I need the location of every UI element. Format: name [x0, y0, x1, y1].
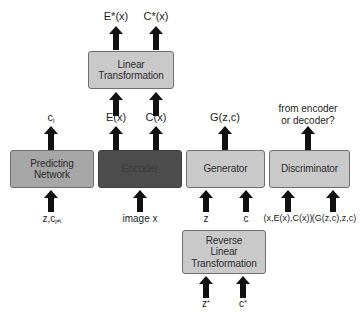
box-discriminator[interactable]: Discriminator — [269, 150, 350, 188]
label-c-i-subscript: i — [53, 117, 55, 124]
linear-transformation-label-line2: Transformation — [89, 70, 173, 81]
box-linear-transformation[interactable]: Linear Transformation — [88, 51, 174, 89]
arrow-encoder-to-ex — [109, 126, 123, 150]
label-input-generator-c: c — [236, 213, 256, 225]
predicting-network-label-line1: Predicting — [11, 158, 93, 169]
label-input-generator-z: z — [196, 213, 216, 225]
encoder-label: Encoder — [99, 163, 181, 174]
input-reverse-z-superscript: * — [207, 298, 210, 307]
arrow-predicting-to-ci — [44, 126, 58, 150]
box-encoder[interactable]: Encoder — [98, 150, 182, 188]
input-predicting-base: z,c — [43, 213, 56, 224]
arrow-input-to-encoder — [133, 190, 147, 212]
label-c-x: C(x) — [133, 111, 179, 124]
arrow-input-to-predicting — [44, 190, 58, 212]
arrow-c-to-generator — [239, 190, 253, 212]
arrow-encoder-to-cx — [149, 126, 163, 150]
from-encoder-line2: or decoder? — [281, 115, 334, 126]
label-input-discriminator-fake: (G(z,c),z,c) — [301, 213, 361, 223]
from-encoder-line1: from encoder — [279, 103, 338, 114]
reverse-lt-label-line3: Transformation — [183, 258, 265, 269]
label-input-encoder: image x — [110, 213, 170, 225]
predicting-network-label-line2: Network — [11, 169, 93, 180]
box-generator[interactable]: Generator — [186, 150, 265, 188]
arrow-discriminator-to-output — [301, 126, 315, 150]
label-input-reverse-z-star: z* — [196, 298, 216, 310]
label-c-star-x: C*(x) — [133, 10, 179, 23]
generator-label: Generator — [187, 163, 264, 174]
arrow-z-star-to-reverse-lt — [199, 276, 213, 298]
label-from-encoder-or-decoder: from encoder or decoder? — [264, 103, 352, 126]
arrow-z-to-generator — [199, 190, 213, 212]
box-reverse-linear-transformation[interactable]: Reverse Linear Transformation — [182, 230, 266, 274]
label-c-i: ci — [31, 111, 71, 124]
arrow-lt-to-c-star — [149, 26, 163, 50]
reverse-lt-label-line2: Linear — [183, 246, 265, 257]
arrow-c-star-to-reverse-lt — [236, 276, 250, 298]
discriminator-label: Discriminator — [270, 163, 349, 174]
box-predicting-network[interactable]: Predicting Network — [10, 150, 94, 188]
input-reverse-c-superscript: * — [244, 298, 247, 307]
label-g-z-c: G(z,c) — [198, 111, 252, 124]
reverse-lt-label-line1: Reverse — [183, 235, 265, 246]
arrow-generator-to-gzc — [218, 126, 232, 150]
arrow-real-to-discriminator — [281, 190, 295, 212]
arrow-fake-to-discriminator — [326, 190, 340, 212]
label-input-reverse-c-star: c* — [233, 298, 253, 310]
arrow-lt-to-e-star — [109, 26, 123, 50]
input-predicting-subscript: j≠i — [55, 217, 61, 224]
linear-transformation-label-line1: Linear — [89, 59, 173, 70]
label-input-predicting: z,cj≠i — [20, 213, 84, 225]
